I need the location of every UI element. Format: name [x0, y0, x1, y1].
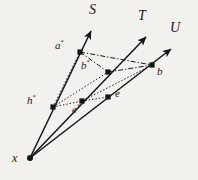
asterisk-icon: * — [33, 93, 36, 100]
ray-label-U: U — [170, 21, 180, 35]
asterisk-icon: * — [77, 102, 80, 109]
vertex-dot-group — [27, 49, 155, 161]
edge-hstar-astar — [53, 52, 80, 107]
vertex-dot-astar — [77, 49, 82, 54]
edge-astar-b — [80, 52, 152, 65]
point-label-a-star: a* — [55, 39, 64, 51]
point-label-h-star: h* — [27, 94, 36, 106]
vertex-dot-bstar — [105, 69, 110, 74]
point-label-b: b — [157, 66, 163, 77]
asterisk-icon: * — [61, 38, 64, 45]
vertex-dot-origin — [27, 155, 33, 161]
ray-label-T: T — [138, 9, 146, 23]
vertex-dot-b — [149, 62, 154, 67]
point-label-e-star: e* — [72, 103, 80, 115]
asterisk-icon: * — [87, 58, 90, 65]
vertex-dot-hstar — [50, 104, 55, 109]
point-label-b-star: b* — [81, 59, 90, 71]
point-label-origin-x: x — [12, 152, 17, 164]
point-label-e: e — [115, 88, 120, 99]
vertex-dot-e — [105, 94, 110, 99]
ray-label-S: S — [89, 3, 96, 17]
ray-group — [30, 31, 171, 158]
vector-ray-diagram — [0, 0, 198, 180]
